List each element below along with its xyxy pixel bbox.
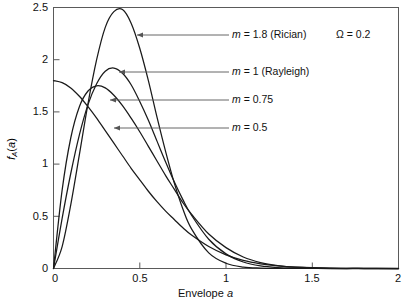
nakagami-pdf-chart: 2.5 2 1.5 1 0.5 0 0 0.5 1 1.5 2 Envelope… — [0, 0, 411, 304]
x-axis-title-prefix: Envelope — [178, 287, 227, 299]
y-tick-label-1p5: 1.5 — [16, 105, 48, 117]
y-tick-label-2: 2 — [16, 53, 48, 65]
annotation-m-1-symbol: m — [232, 65, 241, 77]
x-tick-label-0p5: 0.5 — [129, 272, 151, 284]
x-tick-label-1p5: 1.5 — [301, 272, 323, 284]
y-tick-label-0: 0 — [16, 262, 48, 274]
x-tick-label-0: 0 — [50, 272, 60, 284]
y-axis-title-paren-open: ( — [5, 148, 17, 152]
x-axis-title: Envelope a — [0, 287, 411, 299]
annotation-m-0p75-symbol: m — [232, 93, 241, 105]
omega-parameter-label: Ω = 0.2 — [336, 28, 370, 40]
annotation-m-1-text: = 1 (Rayleigh) — [241, 65, 310, 77]
plot-frame — [54, 8, 399, 269]
annotation-m-1: m = 1 (Rayleigh) — [232, 65, 309, 77]
y-axis-title-f: f — [5, 157, 17, 160]
y-axis-title-paren-close: ) — [5, 138, 17, 142]
annotation-m-1p8-symbol: m — [232, 28, 241, 40]
x-axis-title-variable: a — [227, 287, 233, 299]
y-axis-title-subscript: A — [10, 152, 19, 157]
annotation-m-1p8: m = 1.8 (Rician) — [232, 28, 306, 40]
y-axis-title: fA(a) — [5, 121, 19, 177]
omega-symbol: Ω — [336, 28, 344, 40]
annotation-m-0p5: m = 0.5 — [232, 121, 267, 133]
chart-canvas — [0, 0, 411, 304]
annotation-m-0p75: m = 0.75 — [232, 93, 273, 105]
omega-value: = 0.2 — [344, 28, 371, 40]
annotation-m-0p5-symbol: m — [232, 121, 241, 133]
annotation-m-0p5-text: = 0.5 — [241, 121, 268, 133]
x-tick-label-1: 1 — [221, 272, 231, 284]
y-tick-label-0p5: 0.5 — [16, 210, 48, 222]
y-axis-title-wrap: fA(a) — [2, 120, 22, 180]
y-axis-title-arg: a — [5, 142, 17, 148]
y-tick-label-2p5: 2.5 — [16, 1, 48, 13]
annotation-m-1p8-text: = 1.8 (Rician) — [241, 28, 307, 40]
x-tick-label-2: 2 — [393, 272, 403, 284]
annotation-m-0p75-text: = 0.75 — [241, 93, 273, 105]
